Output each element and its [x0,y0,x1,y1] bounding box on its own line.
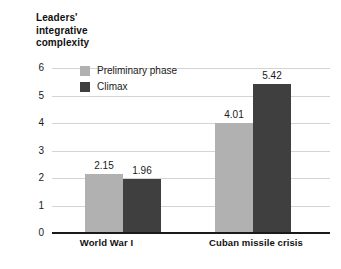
bar-value-ww1-preliminary: 2.15 [85,161,123,171]
bar-value-ww1-climax: 1.96 [123,166,161,176]
ytick-label-3: 3 [38,146,44,156]
bar-cuba-preliminary [215,123,253,233]
page-title: Leaders' integrative complexity [36,12,89,50]
x-axis-baseline [52,232,330,234]
category-label-cuban-missile-crisis: Cuban missile crisis [182,238,330,248]
bar-value-cuba-climax: 5.42 [253,71,291,81]
ytick-label-2: 2 [38,173,44,183]
legend-swatch-icon-preliminary-phase [80,66,90,76]
bar-ww1-preliminary [85,174,123,233]
category-label-world-war-i: World War I [52,238,161,248]
legend-label-preliminary-phase: Preliminary phase [97,66,177,76]
ytick-label-1: 1 [38,201,44,211]
legend-label-climax: Climax [97,82,128,92]
ytick-label-4: 4 [38,118,44,128]
ytick-label-6: 6 [38,63,44,73]
bar-ww1-climax [123,179,161,233]
legend-swatch-icon-climax [80,82,90,92]
bar-value-cuba-preliminary: 4.01 [215,110,253,120]
legend-item-preliminary-phase: Preliminary phase [80,64,177,78]
chart-figure: Leaders' integrative complexity 6 5 4 3 … [0,0,341,269]
legend: Preliminary phase Climax [80,64,177,96]
ytick-label-0: 0 [38,228,44,238]
bar-cuba-climax [253,84,291,233]
legend-item-climax: Climax [80,80,177,94]
ytick-label-5: 5 [38,91,44,101]
